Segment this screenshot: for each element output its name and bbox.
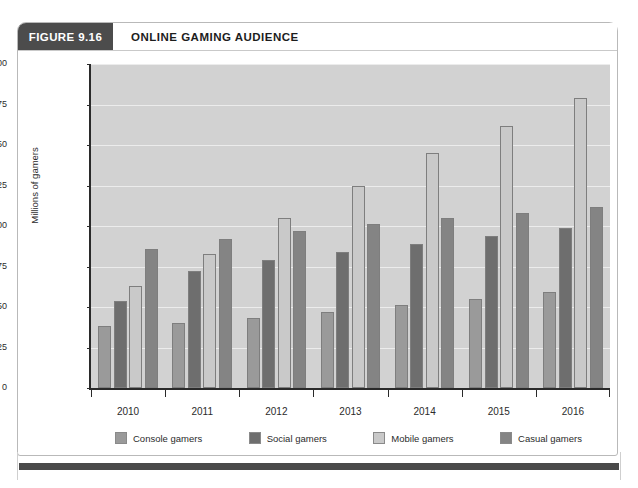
bar [367,224,380,388]
x-axis-tick-mark [239,390,240,397]
y-axis-tick-label: 25 [0,342,7,352]
chart-legend: Console gamersSocial gamersMobile gamers… [89,432,608,444]
bar [293,231,306,388]
y-axis-tick-label: 125 [0,180,7,190]
legend-label: Casual gamers [518,433,582,444]
legend-swatch-icon [373,432,385,444]
legend-item[interactable]: Casual gamers [500,432,582,444]
bar [574,98,587,388]
bar [114,301,127,388]
chart-zone: Millions of gamers 025507510012515017520… [18,52,619,456]
x-axis-tick-mark [388,390,389,397]
bar [278,218,291,388]
x-axis-tick-label: 2015 [469,406,529,417]
bar [500,126,513,388]
bar [321,312,334,388]
bar [98,326,111,388]
bar-group: 2013 [313,64,387,388]
bottom-rule [19,463,619,470]
legend-label: Social gamers [267,433,327,444]
bar [129,286,142,388]
legend-item[interactable]: Mobile gamers [373,432,453,444]
bar-group: 2011 [165,64,239,388]
x-axis-tick-mark [536,390,537,397]
x-axis-tick-label: 2014 [395,406,455,417]
bar [172,323,185,388]
bar [469,299,482,388]
y-axis-tick-label: 50 [0,301,7,311]
plot-area: 0255075100125150175200201020112012201320… [89,64,610,390]
x-axis-tick-label: 2016 [543,406,603,417]
figure-number-tag: FIGURE 9.16 [18,23,113,50]
figure-card: FIGURE 9.16 ONLINE GAMING AUDIENCE Milli… [17,22,618,456]
legend-swatch-icon [249,432,261,444]
figure-header: FIGURE 9.16 ONLINE GAMING AUDIENCE [18,23,617,51]
x-axis-tick-label: 2012 [246,406,306,417]
bar [543,292,556,388]
bar-group: 2016 [536,64,610,388]
bar [410,244,423,388]
right-rule [620,452,621,480]
bar [145,249,158,388]
x-axis-tick-mark [609,390,610,397]
y-axis-tick-label: 150 [0,139,7,149]
x-axis-tick-mark [462,390,463,397]
legend-swatch-icon [115,432,127,444]
bar [203,254,216,388]
left-rule [17,452,18,480]
x-axis-tick-mark [165,390,166,397]
bar-group: 2010 [91,64,165,388]
bar [219,239,232,388]
y-axis-tick-label: 175 [0,99,7,109]
x-axis-tick-label: 2011 [172,406,232,417]
y-axis-tick-label: 0 [0,382,7,392]
bar [262,260,275,388]
legend-label: Mobile gamers [391,433,453,444]
bar [336,252,349,388]
legend-swatch-icon [500,432,512,444]
legend-item[interactable]: Console gamers [115,432,202,444]
x-axis-tick-mark [313,390,314,397]
bar [590,207,603,388]
figure-page: FIGURE 9.16 ONLINE GAMING AUDIENCE Milli… [0,0,638,488]
bar [441,218,454,388]
bar [559,228,572,388]
bar [426,153,439,388]
bar [516,213,529,388]
bar [247,318,260,388]
y-axis-tick-label: 200 [0,58,7,68]
bar [485,236,498,388]
bar-group: 2012 [239,64,313,388]
y-axis-tick-label: 100 [0,220,7,230]
bar [352,186,365,389]
figure-title: ONLINE GAMING AUDIENCE [113,23,617,50]
x-axis-tick-mark [91,390,92,397]
bar [188,271,201,388]
legend-item[interactable]: Social gamers [249,432,327,444]
bar-group: 2014 [388,64,462,388]
legend-label: Console gamers [133,433,202,444]
y-axis-title: Millions of gamers [29,134,40,238]
x-axis-tick-label: 2013 [320,406,380,417]
y-axis-tick-label: 75 [0,261,7,271]
bar [395,305,408,388]
y-axis-tick-mark [87,388,91,389]
x-axis-tick-label: 2010 [98,406,158,417]
bar-group: 2015 [462,64,536,388]
